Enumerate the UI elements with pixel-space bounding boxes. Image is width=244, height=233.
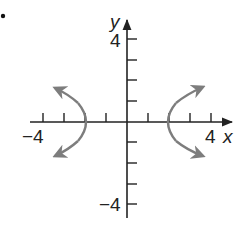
y-axis-label: y [108, 11, 121, 32]
hyperbola-graph: y 4 −4 −4 4 x [0, 0, 244, 233]
x-axis-label: x [222, 126, 234, 147]
x-tick-label-min: −4 [22, 126, 44, 147]
y-axis [127, 20, 137, 218]
bullet-dot [1, 14, 5, 18]
x-tick-label-max: 4 [205, 126, 216, 147]
y-tick-label-max: 4 [110, 30, 121, 51]
y-tick-label-min: −4 [99, 194, 121, 215]
x-axis [30, 113, 232, 122]
